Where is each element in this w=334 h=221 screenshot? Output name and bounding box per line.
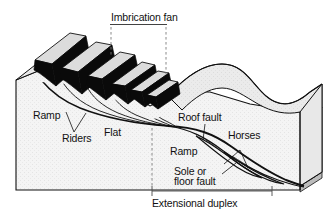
horses-label: Horses — [228, 129, 260, 141]
sole-fault-label-line2: floor fault — [174, 175, 216, 187]
ramp-left-label: Ramp — [33, 109, 61, 121]
imbrication-fan-label: Imbrication fan — [111, 11, 178, 23]
diagram-canvas: Imbrication fan Ramp Riders Flat Roof fa… — [0, 0, 334, 221]
ramp-right-label: Ramp — [170, 145, 198, 157]
riders-label: Riders — [62, 132, 91, 144]
roof-fault-label: Roof fault — [178, 111, 222, 123]
extensional-duplex-label: Extensional duplex — [152, 197, 238, 209]
flat-label: Flat — [104, 126, 121, 138]
geology-block-diagram: Imbrication fan Ramp Riders Flat Roof fa… — [0, 0, 334, 221]
